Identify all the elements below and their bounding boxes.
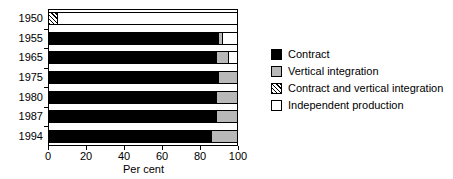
legend-label: Contract bbox=[288, 49, 330, 60]
legend-swatch-contract bbox=[271, 49, 282, 60]
bar-segment-independent bbox=[228, 52, 237, 63]
legend-label: Contract and vertical integration bbox=[288, 83, 443, 94]
x-tick-label: 100 bbox=[229, 151, 247, 162]
stacked-bar bbox=[48, 110, 238, 123]
bar-segment-independent bbox=[57, 13, 237, 24]
stacked-bar bbox=[48, 130, 238, 143]
stacked-bar bbox=[48, 12, 238, 25]
bar-segment-contract bbox=[49, 52, 216, 63]
x-tick-label: 40 bbox=[118, 151, 130, 162]
bar-segment-vertical bbox=[216, 92, 237, 103]
legend-item: Vertical integration bbox=[271, 63, 451, 79]
bar-row bbox=[48, 51, 238, 64]
legend-label: Independent production bbox=[288, 100, 404, 111]
x-tick-label: 20 bbox=[80, 151, 92, 162]
legend-swatch-independent bbox=[271, 100, 282, 111]
bar-segment-vertical bbox=[216, 52, 227, 63]
y-tick-label: 1975 bbox=[19, 72, 43, 83]
legend-swatch-vertical bbox=[271, 66, 282, 77]
x-tick-label: 0 bbox=[45, 151, 51, 162]
bar-segment-vertical bbox=[218, 72, 237, 83]
chart-legend: ContractVertical integrationContract and… bbox=[271, 46, 451, 114]
stacked-bar bbox=[48, 71, 238, 84]
y-tick-label: 1955 bbox=[19, 33, 43, 44]
bar-segment-contract bbox=[49, 111, 216, 122]
legend-label: Vertical integration bbox=[288, 66, 379, 77]
bar-segment-contract bbox=[49, 33, 218, 44]
bar-segment-both bbox=[49, 13, 57, 24]
y-axis-labels: 1950195519651975198019871994 bbox=[0, 9, 46, 146]
legend-swatch-both bbox=[271, 83, 282, 94]
x-tick-label: 60 bbox=[156, 151, 168, 162]
x-axis-title: Per cent bbox=[48, 164, 239, 175]
bar-segment-contract bbox=[49, 131, 211, 142]
y-tick-label: 1987 bbox=[19, 111, 43, 122]
bar-row bbox=[48, 32, 238, 45]
chart-container: 1950195519651975198019871994 02040608010… bbox=[0, 0, 453, 179]
bar-segment-contract bbox=[49, 72, 218, 83]
bar-row bbox=[48, 130, 238, 143]
y-tick-label: 1980 bbox=[19, 92, 43, 103]
x-axis-ticks bbox=[48, 146, 239, 150]
bar-segment-vertical bbox=[216, 111, 237, 122]
bar-row bbox=[48, 91, 238, 104]
bar-row bbox=[48, 12, 238, 25]
y-tick-label: 1965 bbox=[19, 52, 43, 63]
stacked-bar bbox=[48, 91, 238, 104]
stacked-bar bbox=[48, 32, 238, 45]
legend-item: Independent production bbox=[271, 97, 451, 113]
y-tick-label: 1994 bbox=[19, 131, 43, 142]
bar-segment-vertical bbox=[211, 131, 237, 142]
bar-segment-contract bbox=[49, 92, 216, 103]
bar-row bbox=[48, 71, 238, 84]
stacked-bar bbox=[48, 51, 238, 64]
bar-row bbox=[48, 110, 238, 123]
legend-item: Contract bbox=[271, 46, 451, 62]
bar-segment-independent bbox=[222, 33, 237, 44]
x-tick-label: 80 bbox=[194, 151, 206, 162]
plot-area bbox=[48, 9, 238, 146]
y-tick-label: 1950 bbox=[19, 13, 43, 24]
legend-item: Contract and vertical integration bbox=[271, 80, 451, 96]
